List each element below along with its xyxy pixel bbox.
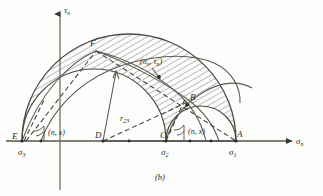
angle-label-left: (n, x) xyxy=(48,128,65,137)
mohr-diagram-svg: τn σn E σ3 D C σ2 A σ1 F B (σn, τn) r23 … xyxy=(0,0,323,196)
dot-A xyxy=(234,139,237,142)
dot-B xyxy=(185,103,188,106)
dot-tick-4 xyxy=(210,140,213,143)
dot-tick-3 xyxy=(189,140,192,143)
dot-tick-1 xyxy=(40,140,43,143)
point-label-B: B xyxy=(190,92,196,102)
mohr-circle-figure: τn σn E σ3 D C σ2 A σ1 F B (σn, τn) r23 … xyxy=(0,0,323,196)
point-label-F: F xyxy=(89,38,96,48)
point-label-A: A xyxy=(236,129,243,139)
angle-label-right: (n, x) xyxy=(188,127,205,136)
dot-stress-point xyxy=(157,75,161,79)
dot-tick-2 xyxy=(128,140,131,143)
point-label-E: E xyxy=(11,131,18,141)
figure-caption: (b) xyxy=(155,172,165,182)
point-label-C: C xyxy=(160,130,167,140)
hatched-admissible-region xyxy=(0,0,323,196)
stress-point-label: (σn, τn) xyxy=(140,57,162,67)
dot-E xyxy=(20,139,23,142)
dot-D xyxy=(101,139,104,142)
point-label-D: D xyxy=(94,130,102,140)
